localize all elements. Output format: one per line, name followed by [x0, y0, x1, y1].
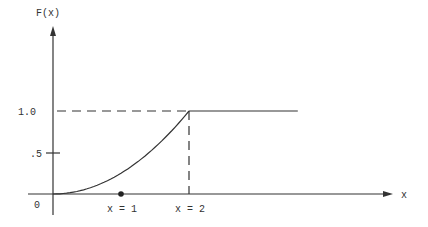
- plot-area: [53, 111, 298, 197]
- x-axis-label: x: [401, 190, 407, 201]
- ytick-label-0-5: .5: [30, 149, 42, 160]
- xmark-dot-icon: [118, 191, 124, 197]
- y-axis-arrow-icon: [50, 26, 56, 36]
- cdf-curve: [53, 111, 189, 194]
- origin-label: 0: [34, 200, 40, 211]
- y-axis-label: F(x): [36, 8, 60, 19]
- xmark-label-1: x = 1: [107, 204, 137, 215]
- axes: [28, 26, 393, 215]
- xmark-label-2: x = 2: [175, 204, 205, 215]
- ytick-label-1-0: 1.0: [18, 107, 36, 118]
- x-axis-arrow-icon: [383, 191, 393, 197]
- cdf-chart: F(x) x 0 1.0 .5 x = 1 x = 2: [0, 0, 428, 227]
